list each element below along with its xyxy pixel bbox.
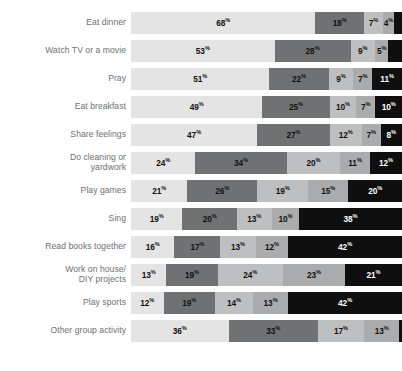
- bar-segment: 34%: [195, 152, 286, 174]
- segment-value: 36%: [173, 326, 187, 335]
- bar-segment: 4%: [383, 12, 394, 34]
- bar-segment: 19%: [164, 292, 215, 314]
- segment-value: 24%: [156, 158, 170, 167]
- bar-segment: 14%: [215, 292, 253, 314]
- segment-value: 20%: [307, 158, 321, 167]
- bar-segment: 47%: [131, 124, 257, 146]
- bar-segment: 22%: [269, 68, 329, 90]
- segment-value: 10%: [336, 102, 350, 111]
- bar-segment: 19%: [131, 208, 182, 230]
- bar-segment: 17%: [174, 236, 220, 258]
- segment-value: 42%: [338, 298, 352, 307]
- bar-segment: 12%: [256, 236, 289, 258]
- category-label: Watch TV or a movie: [0, 46, 131, 56]
- stacked-bar: 51%22%9%7%11%: [131, 68, 402, 90]
- segment-value: 13%: [375, 326, 389, 335]
- segment-value: 20%: [368, 186, 382, 195]
- category-label: Eat dinner: [0, 18, 131, 28]
- bar-segment: 10%: [375, 96, 402, 118]
- category-label: Other group activity: [0, 326, 131, 336]
- bar-segment: 33%: [229, 320, 318, 342]
- segment-value: 12%: [339, 130, 353, 139]
- segment-value: 13%: [231, 242, 245, 251]
- segment-value: 9%: [358, 46, 367, 55]
- bar-segment: 24%: [131, 152, 195, 174]
- segment-value: 16%: [146, 242, 160, 251]
- bar-segment: 13%: [253, 292, 288, 314]
- bar-segment: 27%: [257, 124, 329, 146]
- segment-value: 21%: [152, 186, 166, 195]
- bar-segment: 16%: [131, 236, 174, 258]
- segment-value: 13%: [142, 270, 156, 279]
- bar-segment: 9%: [351, 40, 375, 62]
- segment-value: 12%: [265, 242, 279, 251]
- bar-segment: 13%: [364, 320, 399, 342]
- bar-segment: 42%: [288, 236, 402, 258]
- segment-value: 11%: [348, 158, 361, 167]
- bar-segment: 8%: [381, 124, 402, 146]
- bar-segment: 20%: [287, 152, 341, 174]
- category-label: Eat breakfast: [0, 102, 131, 112]
- chart-row: Watch TV or a movie53%28%9%5%5%: [0, 40, 402, 62]
- segment-value: 11%: [380, 74, 393, 83]
- chart-row: Other group activity36%33%17%13%1%: [0, 320, 402, 342]
- stacked-bar: 13%19%24%23%21%: [131, 264, 402, 286]
- bar-segment: 15%: [308, 180, 348, 202]
- segment-value: 7%: [366, 130, 375, 139]
- bar-segment: 28%: [275, 40, 351, 62]
- bar-segment: 12%: [330, 124, 362, 146]
- segment-value: 9%: [336, 74, 345, 83]
- segment-value: 23%: [307, 270, 321, 279]
- bar-segment: 10%: [330, 96, 357, 118]
- stacked-bar: 12%19%14%13%42%: [131, 292, 402, 314]
- segment-value: 10%: [278, 214, 292, 223]
- segment-value: 12%: [379, 158, 393, 167]
- segment-value: 19%: [182, 298, 196, 307]
- segment-value: 7%: [358, 74, 367, 83]
- stacked-bar: 49%25%10%7%10%: [131, 96, 402, 118]
- bar-segment: 5%: [375, 40, 389, 62]
- bar-segment: 11%: [340, 152, 370, 174]
- chart-rows: Eat dinner68%18%7%4%3%Watch TV or a movi…: [0, 12, 402, 348]
- chart-row: Play games21%26%19%15%20%: [0, 180, 402, 202]
- stacked-bar: 16%17%13%12%42%: [131, 236, 402, 258]
- bar-segment: 42%: [288, 292, 402, 314]
- stacked-bar: 19%20%13%10%38%: [131, 208, 402, 230]
- chart-row: Play sports12%19%14%13%42%: [0, 292, 402, 314]
- category-label: Read books together: [0, 242, 131, 252]
- bar-segment: 21%: [131, 180, 187, 202]
- bar-segment: 23%: [283, 264, 345, 286]
- segment-value: 12%: [140, 298, 154, 307]
- stacked-bar: 36%33%17%13%1%: [131, 320, 402, 342]
- segment-value: 17%: [190, 242, 204, 251]
- bar-segment: 17%: [318, 320, 364, 342]
- bar-segment: 7%: [353, 68, 372, 90]
- bar-segment: 12%: [131, 292, 164, 314]
- segment-value: 28%: [306, 46, 320, 55]
- category-label: Pray: [0, 74, 131, 84]
- segment-value: 24%: [243, 270, 257, 279]
- bar-segment: 19%: [257, 180, 308, 202]
- bar-segment: 51%: [131, 68, 269, 90]
- segment-value: 13%: [247, 214, 261, 223]
- bar-segment: 49%: [131, 96, 262, 118]
- segment-value: 5%: [377, 46, 386, 55]
- category-label: Work on house/ DIY projects: [0, 265, 131, 284]
- bar-segment: 13%: [237, 208, 272, 230]
- bar-segment: 53%: [131, 40, 275, 62]
- stacked-bar: 24%34%20%11%12%: [131, 152, 402, 174]
- segment-value: 17%: [334, 326, 348, 335]
- segment-value: 22%: [292, 74, 306, 83]
- segment-value: 14%: [227, 298, 241, 307]
- chart-row: Work on house/ DIY projects13%19%24%23%2…: [0, 264, 402, 286]
- bar-segment: 38%: [299, 208, 402, 230]
- segment-value: 34%: [234, 158, 248, 167]
- segment-value: 26%: [215, 186, 229, 195]
- chart-row: Eat dinner68%18%7%4%3%: [0, 12, 402, 34]
- segment-value: 19%: [276, 186, 290, 195]
- stacked-bar: 53%28%9%5%5%: [131, 40, 402, 62]
- segment-value: 21%: [367, 270, 381, 279]
- bar-segment: 21%: [345, 264, 402, 286]
- chart-row: Share feelings47%27%12%7%8%: [0, 124, 402, 146]
- category-label: Play games: [0, 186, 131, 196]
